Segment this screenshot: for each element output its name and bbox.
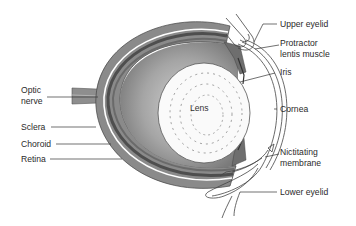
label-retina: Retina (21, 154, 46, 165)
label-lens: Lens (190, 103, 209, 113)
label-upper-eyelid: Upper eyelid (280, 19, 328, 30)
label-optic-nerve-line1: Optic (21, 85, 41, 96)
label-optic-nerve-line2: nerve (21, 96, 43, 107)
label-sclera: Sclera (21, 122, 45, 133)
label-iris: Iris (280, 67, 291, 78)
label-protractor-line2: lentis muscle (280, 49, 330, 60)
label-lower-eyelid: Lower eyelid (280, 187, 328, 198)
label-protractor-line1: Protractor (280, 38, 318, 49)
label-cornea: Cornea (280, 104, 308, 115)
label-nictitating-line2: membrane (280, 158, 321, 169)
label-choroid: Choroid (21, 139, 51, 150)
label-nictitating-line1: Nictitating (280, 147, 318, 158)
lens (158, 63, 250, 163)
